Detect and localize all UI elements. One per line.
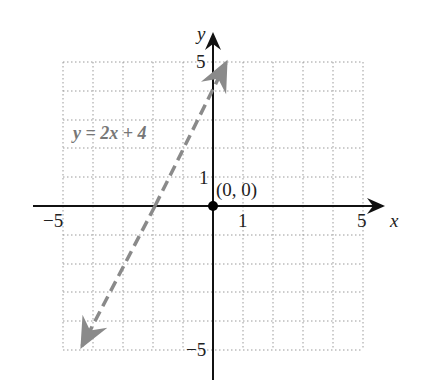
y-tick-neg5: −5: [186, 340, 206, 359]
x-tick-5: 5: [357, 211, 367, 230]
y-axis-label: y: [197, 24, 205, 43]
x-axis-label: x: [390, 211, 398, 230]
x-tick-neg5: −5: [43, 211, 63, 230]
x-tick-1: 1: [238, 211, 248, 230]
y-tick-1: 1: [199, 168, 209, 187]
equation-label: y = 2x + 4: [73, 124, 147, 142]
y-tick-5: 5: [196, 52, 206, 71]
origin-label: (0, 0): [216, 180, 257, 199]
origin-point: [208, 201, 218, 211]
